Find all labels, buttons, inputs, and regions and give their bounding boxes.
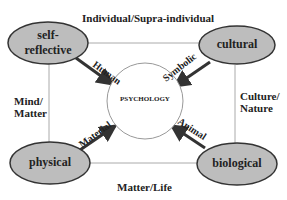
axis-label-bottom: Matter/Life [117, 181, 172, 193]
axis-label-top: Individual/Supra-individual [82, 12, 214, 24]
axis-label-right-line1: Culture/ [240, 90, 280, 102]
axis-label-left: Mind/ Matter [14, 95, 47, 119]
axis-label-left-line1: Mind/ [14, 95, 47, 107]
center-psychology: PSYCHOLOGY [107, 95, 183, 104]
node-cultural: cultural [199, 37, 275, 52]
axis-label-left-line2: Matter [14, 107, 47, 119]
node-self-reflective-line2: reflective [8, 43, 88, 58]
axis-label-right: Culture/ Nature [240, 90, 280, 114]
node-physical: physical [10, 155, 90, 170]
axis-label-right-line2: Nature [240, 102, 280, 114]
node-self-reflective: self- reflective [8, 28, 88, 58]
arrow-label-material: Material [77, 119, 114, 150]
node-biological: biological [197, 156, 277, 171]
arrow-label-symbolic: Symbolic [160, 50, 198, 83]
node-self-reflective-line1: self- [8, 28, 88, 43]
